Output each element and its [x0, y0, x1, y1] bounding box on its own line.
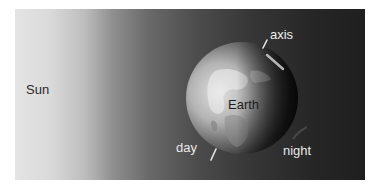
- earth-label: Earth: [228, 98, 259, 111]
- sun-earth-diagram: Sun axis Earth day night: [15, 9, 365, 180]
- axis-line-north: [263, 40, 267, 48]
- day-label: day: [176, 141, 197, 154]
- axis-line-south: [211, 149, 216, 160]
- night-label: night: [283, 144, 311, 157]
- sun-label: Sun: [26, 83, 49, 96]
- axis-label: axis: [270, 28, 293, 41]
